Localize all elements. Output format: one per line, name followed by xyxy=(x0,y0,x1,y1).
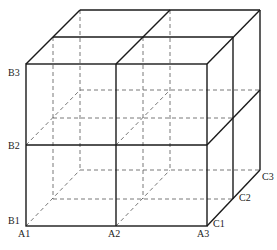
label-c2: C2 xyxy=(239,193,251,203)
label-b3: B3 xyxy=(8,68,20,78)
label-b1: B1 xyxy=(8,216,20,226)
label-a1: A1 xyxy=(18,229,30,239)
label-a2: A2 xyxy=(108,229,120,239)
label-c3: C3 xyxy=(262,172,274,182)
hidden-edges xyxy=(26,10,260,226)
label-b2: B2 xyxy=(8,141,20,151)
label-a3: A3 xyxy=(197,229,209,239)
cube-grid-diagram xyxy=(0,0,277,250)
label-c1: C1 xyxy=(213,219,225,229)
